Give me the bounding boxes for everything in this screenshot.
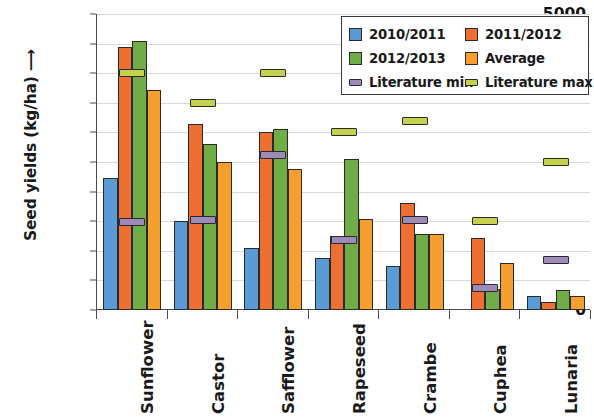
x-tick-mark	[449, 310, 450, 319]
bar	[132, 41, 147, 310]
x-tick-mark	[378, 310, 379, 319]
bar	[359, 219, 374, 310]
legend-label: 2010/2011	[369, 27, 445, 42]
legend-swatch-icon	[465, 28, 478, 41]
x-tick-mark	[519, 310, 520, 319]
legend-item-literature-max: Literature max	[465, 70, 581, 94]
bar	[174, 221, 189, 310]
legend-row: 2012/2013 Average	[349, 46, 581, 70]
legend-item-2010-2011: 2010/2011	[349, 22, 465, 46]
literature-marker	[260, 69, 286, 77]
literature-marker	[472, 217, 498, 225]
bar	[527, 296, 542, 310]
x-axis-category-label: Lunaria	[562, 344, 581, 414]
literature-marker	[119, 218, 145, 226]
bar	[485, 289, 500, 310]
legend-swatch-icon	[465, 79, 478, 86]
x-tick-mark	[167, 310, 168, 319]
bar	[471, 238, 486, 310]
bar	[556, 290, 571, 310]
legend-row: 2010/2011 2011/2012	[349, 22, 581, 46]
bar	[500, 263, 515, 310]
bar	[541, 302, 556, 310]
literature-marker	[119, 69, 145, 77]
x-tick-mark	[308, 310, 309, 319]
literature-marker	[190, 99, 216, 107]
legend-item-average: Average	[465, 46, 581, 70]
bar	[429, 234, 444, 310]
y-axis-title: Seed yields (kg/ha) ⟶	[22, 10, 40, 280]
legend-item-2012-2013: 2012/2013	[349, 46, 465, 70]
bar	[344, 159, 359, 310]
grid-line	[97, 103, 590, 104]
x-tick-mark	[237, 310, 238, 319]
legend-swatch-icon	[349, 52, 362, 65]
bar	[203, 144, 218, 310]
bar	[330, 236, 345, 310]
bar	[386, 266, 401, 310]
literature-marker	[543, 256, 569, 264]
chart-legend: 2010/2011 2011/2012 2012/2013 Average Li…	[341, 16, 589, 95]
literature-marker	[331, 128, 357, 136]
bar	[244, 248, 259, 310]
legend-label: 2011/2012	[485, 27, 561, 42]
bar	[217, 162, 232, 310]
x-axis-category-label: Cuphea	[491, 344, 510, 414]
x-axis-category-label: Rapeseed	[350, 323, 369, 414]
legend-label: Average	[485, 51, 545, 66]
bar	[147, 90, 162, 310]
bar	[415, 234, 430, 310]
legend-swatch-icon	[349, 79, 362, 86]
legend-item-2011-2012: 2011/2012	[465, 22, 581, 46]
bar	[288, 169, 303, 310]
literature-marker	[543, 158, 569, 166]
grid-line	[97, 14, 590, 15]
literature-marker	[190, 216, 216, 224]
x-axis-category-label: Safflower	[279, 327, 298, 414]
legend-label: Literature max	[485, 75, 593, 90]
legend-label: 2012/2013	[369, 51, 445, 66]
legend-label: Literature min	[369, 75, 473, 90]
bar	[118, 47, 133, 310]
literature-marker	[402, 216, 428, 224]
legend-swatch-icon	[465, 52, 478, 65]
bar	[315, 258, 330, 310]
x-axis-category-label: Sunflower	[138, 320, 157, 414]
bar	[103, 178, 118, 310]
x-axis-category-label: Crambe	[421, 342, 440, 414]
x-tick-mark	[96, 310, 97, 319]
bar	[259, 132, 274, 310]
literature-marker	[472, 284, 498, 292]
legend-swatch-icon	[349, 28, 362, 41]
literature-marker	[331, 236, 357, 244]
seed-yields-bar-chart: Seed yields (kg/ha) ⟶ 050010001500200025…	[0, 0, 594, 420]
x-tick-mark	[590, 310, 591, 319]
literature-marker	[260, 151, 286, 159]
bar	[570, 296, 585, 310]
legend-row: Literature min Literature max	[349, 70, 581, 94]
legend-item-literature-min: Literature min	[349, 70, 465, 94]
literature-marker	[402, 117, 428, 125]
x-axis-category-label: Castor	[209, 354, 228, 414]
